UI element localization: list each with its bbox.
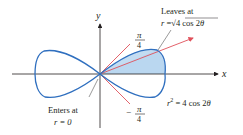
svg-text:Leaves at: Leaves at [161, 6, 194, 16]
svg-text:r =√4 cos 2θ: r =√4 cos 2θ [161, 18, 204, 28]
svg-text:Enters at: Enters at [48, 105, 79, 115]
svg-text:−: − [126, 107, 131, 117]
svg-text:r2 = 4 cos 2θ: r2 = 4 cos 2θ [167, 97, 211, 108]
svg-text:4: 4 [137, 41, 141, 50]
svg-text:π: π [137, 104, 142, 114]
angle-label-minus-pi-over-4: − π 4 [126, 104, 145, 124]
y-axis-label: y [95, 10, 101, 21]
angle-label-pi-over-4: π 4 [135, 30, 145, 50]
ray-minus-pi-over-4 [100, 74, 130, 104]
equation-label: r2 = 4 cos 2θ [167, 97, 211, 108]
svg-text:r = 0: r = 0 [54, 117, 72, 127]
svg-text:4: 4 [137, 115, 141, 124]
lemniscate-diagram: y x π 4 − π 4 Leaves at r =√4 cos 2θ r2 … [0, 0, 243, 135]
leaves-annotation: Leaves at r =√4 cos 2θ [161, 6, 218, 28]
enters-annotation: Enters at r = 0 [48, 105, 79, 127]
svg-text:π: π [137, 30, 142, 40]
x-axis-label: x [221, 68, 227, 79]
